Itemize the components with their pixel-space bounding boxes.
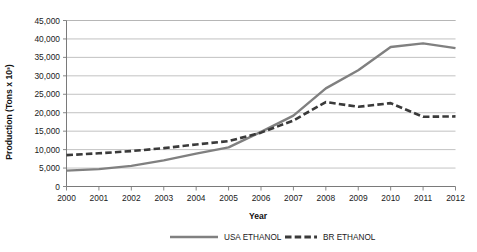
x-tick-label: 2005 <box>219 193 238 203</box>
data-series <box>67 43 456 170</box>
legend-label-usa-ethanol: USA ETHANOL <box>224 233 282 242</box>
y-tick-label: 10,000 <box>34 145 60 155</box>
x-tick-label: 2001 <box>90 193 109 203</box>
x-tick-label: 2011 <box>414 193 432 203</box>
chart-canvas: 05,00010,00015,00020,00025,00030,00035,0… <box>0 0 477 252</box>
y-tick-label: 20,000 <box>34 108 60 118</box>
x-tick-label: 2004 <box>187 193 206 203</box>
x-axis-title: Year <box>249 211 268 221</box>
x-tick-label: 2007 <box>284 193 303 203</box>
y-axis-tick-labels: 05,00010,00015,00020,00025,00030,00035,0… <box>34 16 66 192</box>
y-axis-title: Production (Tons x 10³) <box>4 64 14 159</box>
y-tick-label: 35,000 <box>34 52 60 62</box>
legend-label-br-ethanol: BR ETHANOL <box>323 233 376 242</box>
x-tick-label: 2006 <box>252 193 271 203</box>
x-tick-label: 2000 <box>57 193 76 203</box>
x-tick-label: 2009 <box>349 193 368 203</box>
gridlines <box>67 21 456 169</box>
y-tick-label: 5,000 <box>39 163 60 173</box>
x-tick-label: 2008 <box>317 193 336 203</box>
ethanol-production-line-chart: 05,00010,00015,00020,00025,00030,00035,0… <box>0 0 477 252</box>
series-line-br-ethanol <box>67 102 456 155</box>
y-tick-label: 45,000 <box>34 16 60 26</box>
x-tick-label: 2012 <box>446 193 465 203</box>
y-tick-label: 0 <box>55 182 60 192</box>
y-tick-label: 30,000 <box>34 71 60 81</box>
x-axis-tick-marks <box>67 187 456 191</box>
x-tick-label: 2010 <box>381 193 400 203</box>
x-axis-tick-labels: 2000200120022003200420052006200720082009… <box>57 193 465 203</box>
y-tick-label: 15,000 <box>34 126 60 136</box>
chart-legend: USA ETHANOLBR ETHANOL <box>170 233 376 242</box>
y-tick-label: 40,000 <box>34 34 60 44</box>
x-tick-label: 2003 <box>154 193 173 203</box>
x-tick-label: 2002 <box>122 193 141 203</box>
y-tick-label: 25,000 <box>34 89 60 99</box>
